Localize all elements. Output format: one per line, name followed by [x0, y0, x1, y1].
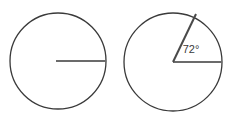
geometry-canvas: 72°	[0, 0, 232, 133]
angle-measure-label: 72°	[183, 43, 200, 55]
geometry-figure: 72°	[0, 0, 232, 133]
